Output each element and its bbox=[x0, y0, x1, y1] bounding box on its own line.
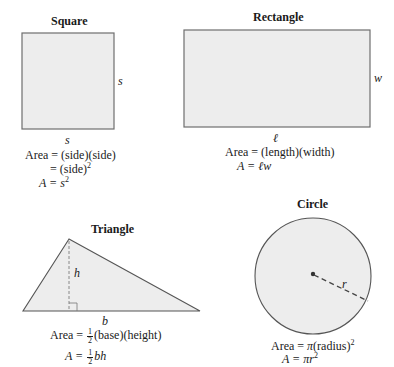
triangle-formula-1-prefix: Area = bbox=[50, 328, 86, 342]
circle-formula-2-exponent: 2 bbox=[314, 351, 318, 360]
square-formula-2: = (side)2 bbox=[50, 162, 91, 176]
circle-formula-1: Area = π(radius)2 bbox=[271, 339, 354, 353]
circle-formula-2-var: πr bbox=[303, 352, 314, 366]
rectangle-formula-1: Area = (length)(width) bbox=[225, 145, 334, 159]
rectangle-formula-2: A = ℓw bbox=[237, 159, 271, 173]
triangle-formula-2-prefix: A = bbox=[65, 349, 86, 363]
one-half-fraction: 12 bbox=[87, 328, 93, 345]
square-formula-1: Area = (side)(side) bbox=[25, 148, 116, 162]
circle-formula-2-prefix: A = bbox=[282, 352, 303, 366]
circle-radius-label: r bbox=[342, 277, 347, 291]
triangle-title: Triangle bbox=[91, 222, 134, 236]
square-formula-3-exponent: 2 bbox=[65, 175, 69, 184]
square-title: Square bbox=[51, 14, 87, 28]
rectangle-width-label: w bbox=[374, 71, 382, 85]
square-shape bbox=[22, 33, 114, 129]
square-formula-3: A = s2 bbox=[39, 176, 69, 190]
rectangle-formula-2-var: ℓw bbox=[258, 159, 271, 173]
triangle-shape bbox=[23, 239, 200, 311]
triangle-formula-2: A = 12bh bbox=[65, 349, 106, 366]
triangle-formula-2-var: bh bbox=[94, 349, 106, 363]
triangle-formula-1-suffix: (base)(height) bbox=[94, 328, 161, 342]
square-formula-3-prefix: A = bbox=[39, 176, 60, 190]
circle-formula-1-prefix: Area = bbox=[271, 339, 307, 353]
rectangle-formula-2-prefix: A = bbox=[237, 159, 258, 173]
circle-title: Circle bbox=[297, 197, 328, 211]
square-side-label: s bbox=[118, 74, 123, 88]
circle-formula-1-suffix: (radius) bbox=[313, 339, 350, 353]
one-half-fraction: 12 bbox=[87, 349, 93, 366]
square-bottom-label: s bbox=[65, 133, 70, 147]
rectangle-title: Rectangle bbox=[253, 10, 304, 24]
triangle-formula-1: Area = 12(base)(height) bbox=[50, 328, 161, 345]
circle-formula-1-exponent: 2 bbox=[350, 338, 354, 347]
rectangle-length-label: ℓ bbox=[273, 131, 278, 145]
triangle-height-label: h bbox=[74, 266, 80, 280]
square-formula-2-base: = (side) bbox=[50, 162, 87, 176]
square-formula-2-exponent: 2 bbox=[87, 161, 91, 170]
triangle-base-label: b bbox=[102, 314, 108, 328]
circle-formula-2: A = πr2 bbox=[282, 352, 318, 366]
rectangle-shape bbox=[184, 30, 370, 127]
